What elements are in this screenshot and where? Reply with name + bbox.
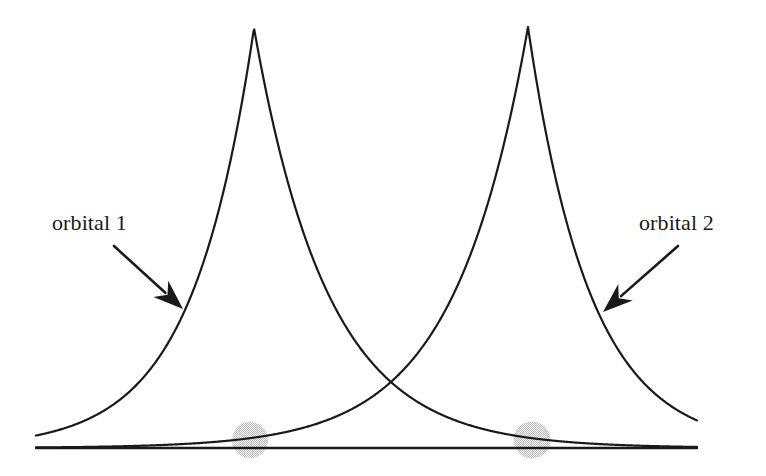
orbital-2-arrow-shaft	[621, 246, 678, 296]
orbital-2-label: orbital 2	[639, 212, 714, 234]
orbital-1-arrow-shaft	[114, 246, 165, 293]
orbital-2-arrow	[603, 246, 678, 312]
orbital-overlap-figure: orbital 1 orbital 2	[0, 0, 766, 476]
orbital-1-curve	[36, 29, 697, 447]
orbital-1-label: orbital 1	[52, 212, 127, 234]
orbital-diagram-canvas	[0, 0, 766, 476]
orbital-2-curve	[36, 27, 697, 447]
orbital-1-arrow	[114, 246, 183, 309]
